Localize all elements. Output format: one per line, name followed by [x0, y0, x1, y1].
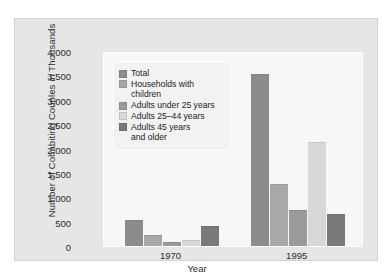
legend-swatch	[119, 102, 127, 110]
y-tick-label: 3,500	[27, 71, 71, 82]
legend-label: Households with	[131, 79, 194, 89]
figure: Number of Cohabiting Couples in Thousand…	[0, 0, 392, 275]
legend-label: Adults under 25 years	[131, 100, 215, 110]
legend-label: Adults 45 years	[131, 122, 190, 132]
legend-item: Households with	[119, 79, 224, 89]
y-tick-label: 2,000	[27, 144, 71, 155]
bar	[182, 240, 200, 246]
legend-swatch	[119, 123, 127, 131]
bar	[125, 220, 143, 246]
bar	[327, 214, 345, 246]
x-tick-label: 1995	[286, 250, 307, 261]
y-tick-label: 2,500	[27, 120, 71, 131]
y-tick-label: 1,500	[27, 168, 71, 179]
legend-item: Total	[119, 68, 224, 78]
bar	[163, 242, 181, 246]
bar	[289, 210, 307, 246]
legend-item: Adults under 25 years	[119, 100, 224, 110]
legend-label: Total	[131, 68, 149, 78]
legend: TotalHouseholds withchildrenAdults under…	[113, 62, 231, 150]
legend-swatch	[119, 70, 127, 78]
bar	[270, 184, 288, 246]
y-tick-label: 500	[27, 217, 71, 228]
y-tick-label: 1,000	[27, 193, 71, 204]
bar	[251, 74, 269, 246]
legend-swatch	[119, 80, 127, 88]
legend-swatch	[119, 112, 127, 120]
bar	[144, 235, 162, 246]
x-tick-label: 1970	[160, 250, 181, 261]
legend-item: Adults 45 years	[119, 122, 224, 132]
legend-item: children	[119, 89, 224, 99]
legend-item: Adults 25–44 years	[119, 111, 224, 121]
legend-label: children	[131, 89, 161, 99]
x-axis-title: Year	[15, 263, 379, 274]
y-tick-label: 3,000	[27, 95, 71, 106]
bar	[201, 226, 219, 246]
y-tick-label: 4,000	[27, 47, 71, 58]
legend-label: Adults 25–44 years	[131, 111, 205, 121]
y-tick-label: 0	[27, 242, 71, 253]
chart-card: Number of Cohabiting Couples in Thousand…	[14, 18, 378, 261]
bar	[308, 142, 326, 246]
legend-item: and older	[119, 132, 224, 142]
legend-label: and older	[131, 132, 167, 142]
